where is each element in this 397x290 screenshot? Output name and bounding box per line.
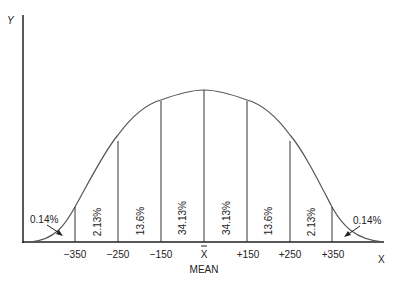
tick-minus-250: −250 bbox=[107, 249, 130, 260]
tick-plus-350: +350 bbox=[322, 249, 345, 260]
tick-minus-150: −150 bbox=[150, 249, 173, 260]
band-label-1: 2.13% bbox=[92, 208, 103, 236]
mean-label: MEAN bbox=[190, 264, 219, 275]
x-axis-label: X bbox=[378, 254, 385, 265]
tick-mean: X bbox=[201, 249, 208, 260]
band-label-4: 34.13% bbox=[221, 201, 232, 235]
band-label-3: 34.13% bbox=[177, 201, 188, 235]
y-axis-label: Y bbox=[7, 15, 14, 26]
tick-minus-350: −350 bbox=[64, 249, 87, 260]
band-label-6: 2.13% bbox=[306, 208, 317, 236]
band-label-5: 13.6% bbox=[263, 207, 274, 235]
normal-curve-diagram bbox=[0, 0, 397, 290]
left-tail-label: 0.14% bbox=[30, 214, 58, 225]
right-tail-label: 0.14% bbox=[353, 215, 381, 226]
band-label-2: 13.6% bbox=[135, 207, 146, 235]
tick-plus-250: +250 bbox=[279, 249, 302, 260]
bell-curve bbox=[30, 90, 384, 242]
tick-plus-150: +150 bbox=[237, 249, 260, 260]
